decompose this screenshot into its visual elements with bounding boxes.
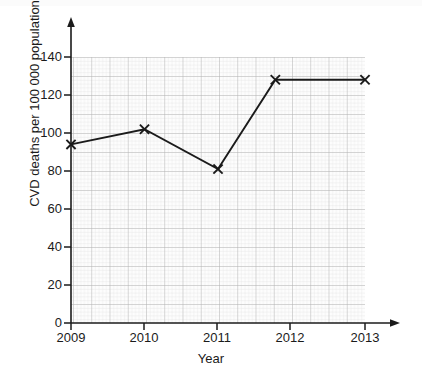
chart-canvas [0, 0, 422, 381]
x-axis-arrow-icon [390, 319, 400, 327]
y-axis-title: CVD deaths per 100 000 population [27, 0, 42, 234]
x-tick-label-2010: 2010 [114, 330, 174, 345]
x-tick-label-2013: 2013 [335, 330, 395, 345]
x-tick-label-2012: 2012 [260, 330, 320, 345]
y-tick-label-40: 40 [20, 239, 62, 254]
page-top-edge [0, 0, 422, 6]
y-tick-label-20: 20 [20, 277, 62, 292]
x-tick-label-2009: 2009 [41, 330, 101, 345]
plot-gridlines [71, 57, 365, 323]
x-tick-label-2011: 2011 [187, 330, 247, 345]
y-tick-label-0: 0 [20, 315, 62, 330]
y-axis-arrow-icon [67, 17, 75, 27]
x-axis-title: Year [0, 351, 422, 366]
cvd-line-chart: 140 120 100 80 60 40 20 0 2009 2010 2011… [0, 0, 422, 381]
